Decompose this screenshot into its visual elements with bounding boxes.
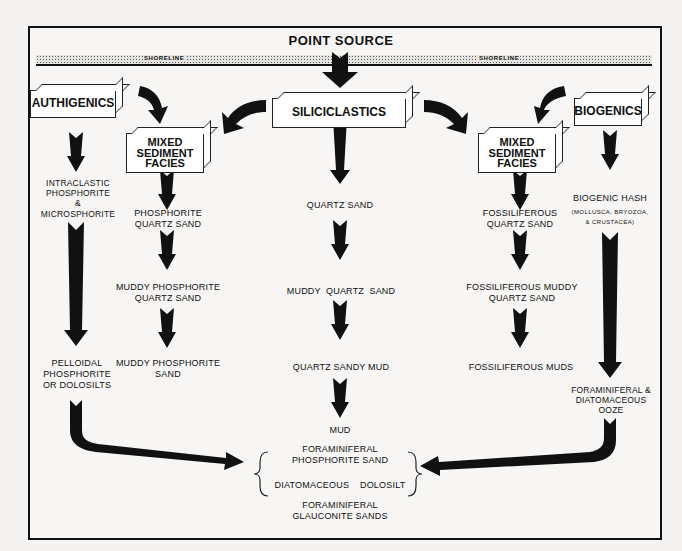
label-intraclastic-phosphorite: INTRACLASTIC PHOSPHORITE & MICROSPHORITE [28,178,128,219]
point-source-arrow-icon [322,52,358,88]
sink-arrow-left-icon [70,400,244,470]
label-diatomaceous-dolosilt: DIATOMACEOUS DOLOSILT [266,480,414,491]
label-fossiliferous-quartz-sand: FOSSILIFEROUS QUARTZ SAND [470,208,570,230]
sink-arrow-right-icon [420,418,616,476]
label-muddy-phosphorite-sand: MUDDY PHOSPHORITE SAND [108,358,228,380]
label-biogenic-hash: BIOGENIC HASH [568,193,652,204]
biogenics-box: BIOGENICS [574,98,642,126]
label-mud: MUD [320,425,360,436]
mixed-sediment-facies-right-box: MIXED SEDIMENT FACIES [478,133,556,173]
curved-arrow-authigenics-icon [138,86,168,124]
thick-arrow-authigenics-icon [64,222,88,346]
label-quartz-sandy-mud: QUARTZ SANDY MUD [282,362,400,373]
label-quartz-sand: QUARTZ SAND [290,200,390,211]
label-muddy-phosphorite-quartz-sand: MUDDY PHOSPHORITE QUARTZ SAND [104,282,232,304]
label-foraminiferal-diatomaceous-ooze: FORAMINIFERAL & DIATOMACEOUS OOZE [566,385,656,416]
authigenics-box: AUTHIGENICS [30,90,116,118]
curved-arrow-left-icon [222,100,266,134]
label-foraminiferal-glauconite-sands: FORAMINIFERAL GLAUCONITE SANDS [284,500,396,522]
label-phosphorite-quartz-sand: PHOSPHORITE QUARTZ SAND [118,208,218,230]
flow-arrows [0,0,682,551]
label-biogenic-hash-taxa: (MOLLUSCA, BRYOZOA, & CRUSTACEA) [562,208,658,227]
label-foraminiferal-phosphorite-sand: FORAMINIFERAL PHOSPHORITE SAND [278,444,402,466]
curved-arrow-right-icon [424,100,468,134]
mixed-sediment-facies-left-box: MIXED SEDIMENT FACIES [126,133,204,173]
siliciclastics-box: SILICICLASTICS [272,98,406,128]
curved-arrow-biogenics-icon [534,86,566,124]
label-muddy-quartz-sand: MUDDY QUARTZ SAND [276,286,406,297]
thick-arrow-biogenics-icon [598,232,622,378]
label-fossiliferous-muddy-quartz-sand: FOSSILIFEROUS MUDDY QUARTZ SAND [460,282,584,304]
label-fossiliferous-muds: FOSSILIFEROUS MUDS [466,362,576,373]
